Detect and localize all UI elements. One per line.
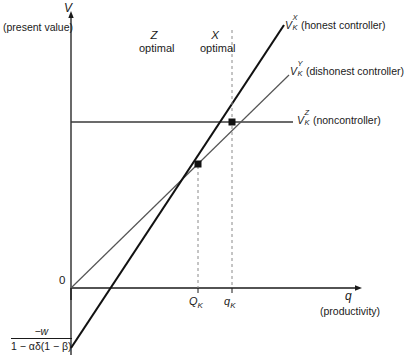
series-symbol-vky: VYK [290, 65, 297, 77]
series-symbol-vkx-sub: K [293, 24, 298, 33]
series-legend-vkz: (noncontroller) [313, 114, 381, 126]
x-axis-subtitle: (productivity) [320, 305, 380, 317]
series-symbol-vky-sup: Y [298, 60, 303, 69]
xtick-label-qk-sub: K [230, 301, 235, 310]
region-symbol-z: Z [139, 29, 169, 42]
region-label-x-optimal: X optimal [200, 29, 230, 55]
y-intercept-expression: −w 1 − αδ(1 − β) [11, 325, 72, 354]
xtick-label-Qk-base: Q [189, 295, 198, 307]
region-word-x: optimal [200, 42, 230, 55]
fraction: −w 1 − αδ(1 − β) [11, 325, 72, 352]
series-symbol-vky-sub: K [298, 70, 303, 79]
series-line-vkx [71, 25, 284, 348]
xtick-label-Qk: QK [189, 295, 203, 310]
intersection-marker-Qk [195, 161, 202, 168]
fraction-numerator: −w [11, 325, 72, 339]
series-symbol-vkz: VZK [297, 114, 304, 126]
fraction-denominator: 1 − αδ(1 − β) [11, 339, 72, 352]
figure-canvas: V (present value) q (productivity) 0 Z o… [0, 0, 411, 362]
x-axis-arrow [355, 285, 362, 290]
series-symbol-vkz-sup: Z [305, 109, 310, 118]
series-symbol-vkx-sup: X [293, 14, 298, 23]
y-axis-subtitle: (present value) [3, 21, 73, 33]
series-legend-vky: (dishonest controller) [306, 65, 404, 77]
xtick-label-qk: qK [224, 295, 235, 310]
series-label-vkx: VXK (honest controller) [285, 19, 386, 31]
origin-label: 0 [59, 274, 65, 287]
series-label-vkz: VZK (noncontroller) [297, 114, 381, 126]
x-axis-title: q [345, 290, 352, 304]
region-label-z-optimal: Z optimal [139, 29, 169, 55]
intersection-marker-qk [229, 119, 236, 126]
series-symbol-vky-base: V [290, 65, 297, 77]
series-symbol-vkx: VXK [285, 19, 292, 31]
region-word-z: optimal [139, 42, 169, 55]
series-symbol-vkx-base: V [285, 19, 292, 31]
xtick-label-Qk-sub: K [198, 301, 203, 310]
y-axis-title: V [64, 2, 72, 16]
series-legend-vkx: (honest controller) [301, 19, 386, 31]
series-symbol-vkz-sub: K [305, 119, 310, 128]
series-symbol-vkz-base: V [297, 114, 304, 126]
series-label-vky: VYK (dishonest controller) [290, 65, 404, 77]
region-symbol-x: X [200, 29, 230, 42]
